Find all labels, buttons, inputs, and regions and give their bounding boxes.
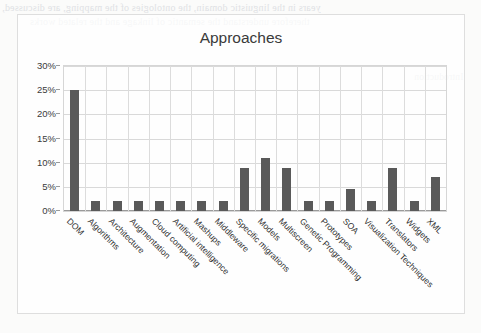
y-axis-tick-mark [56,89,60,90]
chart-container: Approaches 0%5%10%15%20%25%30% DOMAlgori… [17,14,465,314]
gridline-vertical [297,66,298,211]
bar[interactable] [282,168,291,212]
gridline-vertical [404,66,405,211]
bar[interactable] [261,158,270,211]
bar[interactable] [197,201,206,211]
bar[interactable] [134,201,143,211]
gridline-vertical [382,66,383,211]
bar[interactable] [388,168,397,212]
bar[interactable] [410,201,419,211]
bar[interactable] [325,201,334,211]
bar[interactable] [155,201,164,211]
gridline-vertical [425,66,426,211]
gridline-vertical [85,66,86,211]
gridline-vertical [170,66,171,211]
bar[interactable] [367,201,376,211]
x-axis-tick-label: DOM [65,216,86,237]
y-axis-tick-mark [56,210,60,211]
gridline-vertical [128,66,129,211]
y-axis-tick-label: 0% [42,205,56,216]
bar[interactable] [304,201,313,211]
y-axis: 0%5%10%15%20%25%30% [18,65,60,212]
gridline-vertical [234,66,235,211]
plot-area [63,65,447,212]
y-axis-tick-mark [56,113,60,114]
y-axis-tick-label: 30% [37,60,56,71]
y-axis-tick-label: 15% [37,132,56,143]
bleed-text-line-1: years in the linguistic domain, the onto… [2,2,321,13]
bar[interactable] [113,201,122,211]
y-axis-tick-mark [56,186,60,187]
bar[interactable] [431,177,440,211]
bar[interactable] [70,90,79,211]
y-axis-tick-label: 25% [37,84,56,95]
y-axis-tick-label: 10% [37,156,56,167]
bar[interactable] [240,168,249,212]
gridline-vertical [319,66,320,211]
y-axis-tick-mark [56,138,60,139]
bar[interactable] [346,189,355,211]
gridline-vertical [213,66,214,211]
y-axis-tick-label: 5% [42,180,56,191]
x-axis-labels: DOMAlgorithmsArchitectureAugmentationClo… [63,213,447,309]
y-axis-tick-mark [56,162,60,163]
bar[interactable] [91,201,100,211]
bar[interactable] [176,201,185,211]
gridline-vertical [340,66,341,211]
chart-title: Approaches [18,29,464,47]
gridline-vertical [276,66,277,211]
gridline-vertical [361,66,362,211]
gridline-vertical [106,66,107,211]
gridline-vertical [255,66,256,211]
gridline-vertical [149,66,150,211]
y-axis-tick-mark [56,65,60,66]
gridline-vertical [191,66,192,211]
y-axis-tick-label: 20% [37,108,56,119]
bar[interactable] [219,201,228,211]
